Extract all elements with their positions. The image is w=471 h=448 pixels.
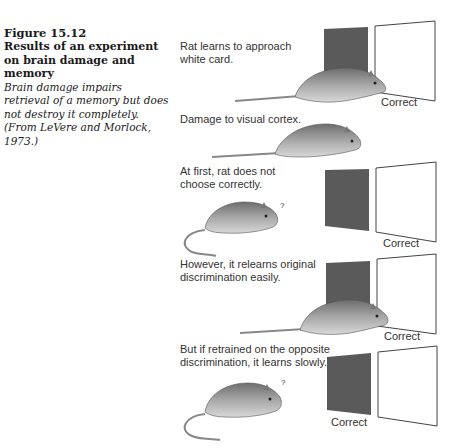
panel-2-label: Damage to visual cortex.	[180, 113, 380, 126]
illustration: ? ?	[0, 0, 471, 448]
rat-damaged	[212, 124, 361, 157]
rat-confused-2	[185, 383, 282, 440]
panel-4-correct-label: Correct	[384, 330, 420, 342]
rat-approaching-2	[240, 300, 388, 334]
panel-5-correct-label: Correct	[331, 416, 367, 428]
question-mark: ?	[281, 378, 286, 387]
panel-5-label: But if retrained on the opposite discrim…	[180, 343, 340, 369]
panel-3-label: At first, rat does not choose correctly.	[180, 165, 290, 191]
panel-3-correct-label: Correct	[383, 237, 419, 249]
panel-1-correct-label: Correct	[381, 96, 417, 108]
rat-confused-1	[185, 202, 278, 256]
panel-4-label: However, it relearns original discrimina…	[180, 258, 320, 284]
panel-3-cards	[325, 162, 436, 242]
question-mark: ?	[280, 201, 285, 210]
dark-card	[325, 169, 369, 231]
white-card	[376, 162, 436, 242]
panel-1-label: Rat learns to approach white card.	[180, 40, 300, 66]
rat-approaching-1	[235, 68, 386, 102]
panel-5-cards	[327, 346, 437, 426]
white-card	[378, 346, 437, 426]
